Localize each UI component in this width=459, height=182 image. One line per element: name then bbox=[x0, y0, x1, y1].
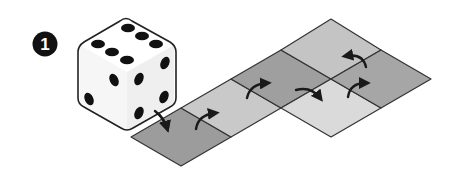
step-badge: 1 bbox=[33, 32, 58, 57]
diagram-canvas: 1 bbox=[0, 0, 459, 182]
step-number: 1 bbox=[40, 35, 49, 54]
die bbox=[78, 19, 176, 131]
dice-movement-diagram: 1 bbox=[0, 0, 459, 182]
